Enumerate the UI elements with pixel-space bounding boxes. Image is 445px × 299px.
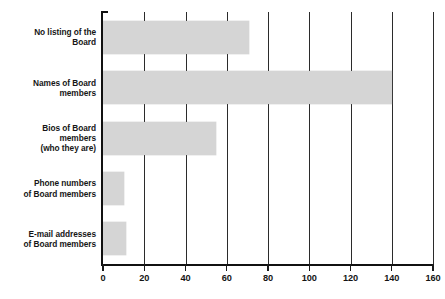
x-tick-mark-140 — [391, 264, 392, 271]
x-tick-label-20: 20 — [139, 273, 149, 283]
x-tick-mark-160 — [432, 264, 433, 271]
y-axis-line — [101, 11, 103, 265]
gridline-80 — [268, 12, 269, 264]
category-label-line: members — [0, 133, 96, 143]
x-tick-label-160: 160 — [425, 273, 440, 283]
category-label: Names of Boardmembers — [0, 77, 96, 97]
category-label: Phone numbersof Board members — [0, 178, 96, 198]
x-axis-ticks: 020406080100120140160 — [103, 264, 433, 298]
bar — [103, 122, 216, 155]
x-tick-label-80: 80 — [263, 273, 273, 283]
category-label-line: Names of Board — [0, 77, 96, 87]
gridline-140 — [392, 12, 393, 264]
x-tick-label-120: 120 — [343, 273, 358, 283]
category-label: No listing of theBoard — [0, 27, 96, 47]
y-axis-top-cap — [101, 11, 108, 13]
plot-area — [103, 12, 433, 264]
bar — [103, 172, 124, 205]
x-tick-mark-0 — [102, 264, 103, 271]
x-tick-mark-80 — [267, 264, 268, 271]
category-label-line: of Board members — [0, 188, 96, 198]
x-tick-label-100: 100 — [302, 273, 317, 283]
category-label-line: Board — [0, 37, 96, 47]
x-tick-mark-100 — [309, 264, 310, 271]
x-tick-label-140: 140 — [384, 273, 399, 283]
category-label-line: Phone numbers — [0, 178, 96, 188]
x-tick-mark-60 — [226, 264, 227, 271]
category-label-line: (who they are) — [0, 143, 96, 153]
bar — [103, 21, 249, 54]
x-tick-mark-120 — [350, 264, 351, 271]
bar — [103, 71, 392, 104]
bar-chart: No listing of theBoardNames of Boardmemb… — [0, 0, 445, 299]
x-tick-label-0: 0 — [100, 273, 105, 283]
x-tick-label-40: 40 — [180, 273, 190, 283]
category-label-line: members — [0, 88, 96, 98]
gridline-100 — [309, 12, 310, 264]
category-axis-labels: No listing of theBoardNames of Boardmemb… — [0, 12, 96, 264]
x-tick-mark-40 — [185, 264, 186, 271]
gridline-120 — [351, 12, 352, 264]
category-label: E-mail addressesof Board members — [0, 229, 96, 249]
category-label-line: E-mail addresses — [0, 229, 96, 239]
category-label: Bios of Boardmembers(who they are) — [0, 123, 96, 154]
x-tick-label-60: 60 — [222, 273, 232, 283]
x-tick-mark-20 — [144, 264, 145, 271]
gridline-160 — [433, 12, 434, 264]
category-label-line: Bios of Board — [0, 123, 96, 133]
category-label-line: No listing of the — [0, 27, 96, 37]
bar — [103, 222, 126, 255]
category-label-line: of Board members — [0, 239, 96, 249]
